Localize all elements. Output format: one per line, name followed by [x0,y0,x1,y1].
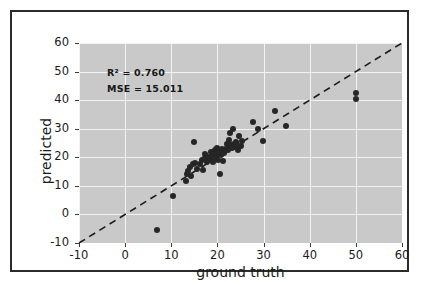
data-point [183,178,189,184]
x-tick-mark [171,243,172,247]
grid-line-horizontal [79,157,402,158]
data-point [220,158,226,164]
x-tick-label: -10 [70,250,89,262]
x-tick-label: 60 [395,250,410,262]
y-tick-label: -10 [12,237,69,249]
grid-line-vertical [217,43,218,243]
scatter-plot-area: R² = 0.760 MSE = 15.011 [79,43,402,243]
x-tick-mark [125,243,126,247]
x-tick-label: 30 [256,250,271,262]
figure-frame: predicted ground truth -100102030405060 … [10,10,409,272]
x-tick-label: 0 [121,250,128,262]
x-tick-mark [264,243,265,247]
y-tick-label: 40 [12,94,69,106]
grid-line-vertical [310,43,311,243]
y-tick-label: 50 [12,66,69,78]
x-tick-mark [310,243,311,247]
y-tick-label: 60 [12,37,69,49]
grid-line-horizontal [79,129,402,130]
data-point [272,108,278,114]
x-axis-title: ground truth [79,264,402,280]
x-tick-label: 10 [164,250,179,262]
data-point [200,167,206,173]
x-tick-mark [356,243,357,247]
x-tick-mark [217,243,218,247]
data-point [260,138,266,144]
data-point [191,139,197,145]
y-tick-label: 20 [12,151,69,163]
data-point [217,171,223,177]
data-point [250,119,256,125]
y-tick-label: 0 [12,208,69,220]
grid-line-vertical [171,43,172,243]
data-point [154,227,160,233]
x-tick-label: 50 [349,250,364,262]
grid-line-vertical [79,43,80,243]
data-point [230,126,236,132]
y-tick-label: 10 [12,180,69,192]
data-point [188,173,194,179]
grid-line-horizontal [79,186,402,187]
data-point [170,193,176,199]
y-tick-label: 30 [12,123,69,135]
grid-line-vertical [356,43,357,243]
data-point [353,90,359,96]
grid-line-horizontal [79,43,402,44]
x-tick-mark [79,243,80,247]
x-tick-label: 20 [210,250,225,262]
data-point [353,96,359,102]
x-tick-label: 40 [302,250,317,262]
data-point [239,138,245,144]
data-point [255,126,261,132]
annotation-mse: MSE = 15.011 [107,83,183,94]
x-tick-mark [402,243,403,247]
annotation-r-squared: R² = 0.760 [107,67,165,78]
grid-line-horizontal [79,214,402,215]
